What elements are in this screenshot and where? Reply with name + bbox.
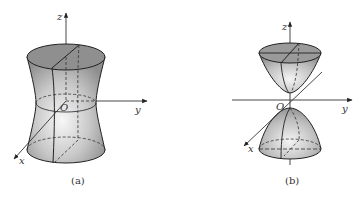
origin-label-b: O bbox=[276, 101, 284, 112]
z-label-b: z bbox=[281, 21, 288, 32]
origin-label-a: O bbox=[60, 102, 68, 113]
lower-sheet bbox=[259, 108, 321, 159]
y-label-a: y bbox=[134, 104, 141, 115]
x-label-b: x bbox=[248, 143, 254, 154]
caption-a: (a) bbox=[71, 175, 85, 186]
x-label-a: x bbox=[19, 155, 25, 166]
figure-a: z y x O (a) bbox=[14, 11, 147, 186]
diagram-canvas: z y x O (a) z y x O (b) bbox=[0, 0, 361, 200]
z-label-a: z bbox=[56, 11, 63, 22]
figure-b: z y x O (b) bbox=[232, 21, 352, 186]
caption-b: (b) bbox=[285, 175, 299, 186]
y-label-b: y bbox=[341, 103, 348, 114]
